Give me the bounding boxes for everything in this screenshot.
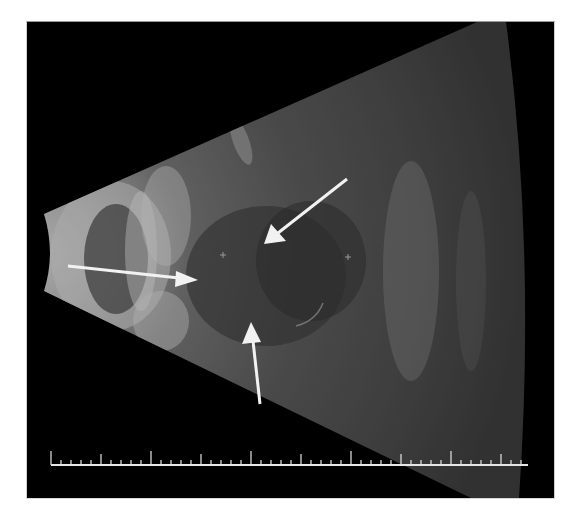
ultrasound-sector	[27, 22, 554, 498]
scan-frame	[26, 21, 555, 499]
ultrasound-scan	[27, 22, 554, 498]
ultrasound-figure	[0, 0, 583, 524]
